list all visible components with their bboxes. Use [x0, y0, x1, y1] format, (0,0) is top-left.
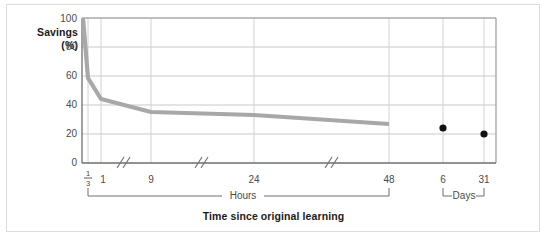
figure-container: Savings (%) Time since original learning [0, 0, 547, 240]
x-tick-fraction-numerator: 1 [86, 169, 90, 178]
data-point-6-days [439, 124, 446, 131]
group-label-days: Days [453, 190, 476, 201]
plot-frame [82, 18, 496, 163]
y-tick-80: 80 [66, 41, 78, 52]
y-tick-0: 0 [71, 157, 77, 168]
x-tick-6: 6 [440, 174, 446, 185]
y-tick-labels: 0 20 40 60 80 100 [60, 13, 77, 168]
y-tick-60: 60 [66, 70, 78, 81]
x-gridlines [88, 18, 484, 163]
x-tick-labels: 1 3 1 9 24 48 6 31 [84, 169, 490, 188]
x-tick-48: 48 [383, 174, 395, 185]
x-tick-fraction-denominator: 3 [86, 179, 90, 188]
x-tick-31: 31 [478, 174, 490, 185]
y-tick-20: 20 [66, 128, 78, 139]
chart-plot: 0 20 40 60 80 100 1 3 1 9 24 [0, 0, 547, 240]
savings-data-points [439, 124, 487, 137]
y-tick-100: 100 [60, 13, 77, 24]
y-tick-40: 40 [66, 99, 78, 110]
group-label-hours: Hours [230, 190, 257, 201]
data-point-31-days [480, 130, 487, 137]
x-tick-24: 24 [248, 174, 260, 185]
axis-lines [82, 18, 496, 163]
x-tick-one-third: 1 3 [84, 169, 92, 188]
x-tick-9: 9 [148, 174, 154, 185]
savings-curve [83, 18, 389, 124]
x-tick-1: 1 [100, 174, 106, 185]
